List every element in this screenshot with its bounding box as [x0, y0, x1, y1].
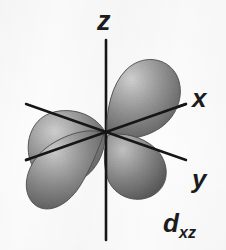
orbital-label-main: d [163, 208, 179, 238]
axis-label-z: z [97, 8, 111, 35]
axis-label-x: x [192, 85, 206, 111]
orbital-figure: z x y dxz [0, 0, 226, 250]
axis-label-y: y [192, 166, 206, 192]
upper-right-lobe [107, 59, 180, 138]
orbital-lobe-group [26, 59, 180, 208]
orbital-label: dxz [163, 210, 196, 241]
orbital-label-subscript: xz [179, 224, 197, 241]
lower-right-lobe [104, 134, 166, 199]
